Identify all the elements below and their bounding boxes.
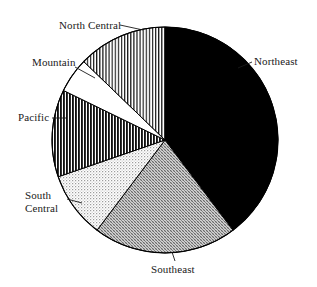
pie-label-northeast: Northeast [254, 55, 298, 67]
pie-label-south-central: South Central [25, 189, 58, 214]
leader-line-southeast [172, 252, 175, 261]
pie-label-south-central-line1: South [25, 189, 58, 202]
pie-label-mountain: Mountain [32, 56, 76, 68]
pie-chart-canvas [0, 0, 317, 287]
pie-label-north-central: North Central [59, 19, 121, 31]
leader-line-north-central [120, 25, 143, 30]
pie-slice-group [52, 27, 278, 253]
pie-label-pacific: Pacific [18, 111, 49, 123]
pie-label-south-central-line2: Central [25, 202, 58, 215]
pie-chart-figure: North Central Mountain Pacific South Cen… [0, 0, 317, 287]
pie-label-southeast: Southeast [151, 263, 195, 275]
